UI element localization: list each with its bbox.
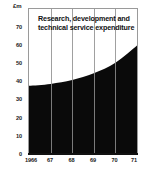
y-axis-tick-labels: 70 60 50 40 30 20 10 0 — [0, 0, 26, 175]
y-tick-50: 50 — [16, 60, 22, 66]
x-tick-67: 67 — [47, 157, 53, 163]
x-tick-1966: 1966 — [25, 157, 37, 163]
y-tick-20: 20 — [16, 115, 22, 121]
y-tick-70: 70 — [16, 24, 22, 30]
x-tick-69: 69 — [90, 157, 96, 163]
y-tick-30: 30 — [16, 96, 22, 102]
y-tick-0: 0 — [19, 151, 22, 157]
chart-title: Research, development and technical serv… — [38, 14, 136, 33]
x-axis-baseline — [28, 153, 138, 155]
x-axis-tick-labels: 1966 67 68 69 70 71 — [0, 157, 144, 169]
y-tick-60: 60 — [16, 42, 22, 48]
y-tick-40: 40 — [16, 78, 22, 84]
x-tick-68: 68 — [68, 157, 74, 163]
x-tick-71: 71 — [131, 157, 137, 163]
plot-inner: Research, development and technical serv… — [29, 9, 137, 153]
x-tick-70: 70 — [111, 157, 117, 163]
plot-area: Research, development and technical serv… — [28, 8, 138, 154]
chart-figure: £m 70 60 50 40 30 20 10 0 Research, deve… — [0, 0, 144, 175]
y-tick-10: 10 — [16, 133, 22, 139]
